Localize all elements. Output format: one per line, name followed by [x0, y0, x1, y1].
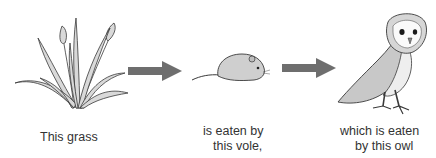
owl-icon	[333, 10, 433, 120]
vole-label-line1: is eaten by	[203, 124, 263, 139]
vole-label-line2: this vole,	[213, 139, 262, 154]
vole-icon	[190, 50, 270, 85]
arrow-right-icon	[282, 58, 338, 78]
arrow-right-icon	[128, 61, 184, 81]
owl-label-line2: by this owl	[355, 139, 413, 154]
grass-label: This grass	[40, 130, 98, 145]
owl-label-line1: which is eaten	[340, 124, 419, 139]
grass-icon	[10, 8, 130, 113]
